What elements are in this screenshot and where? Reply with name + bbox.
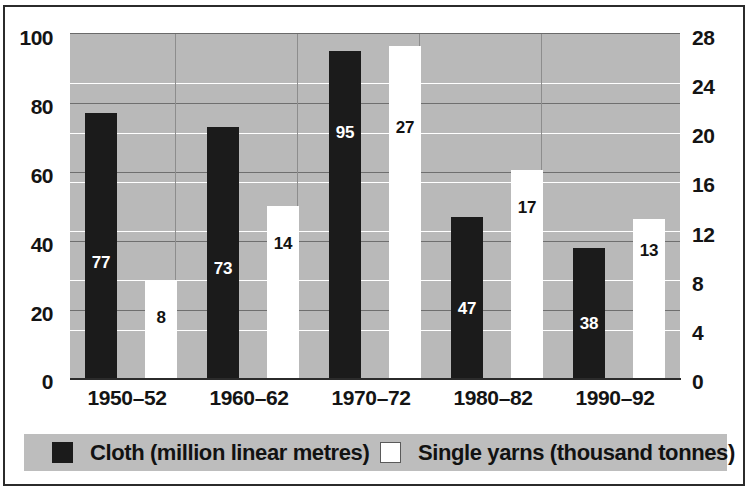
right-axis-tick-24: 24 xyxy=(692,76,744,97)
right-axis-tick-12: 12 xyxy=(692,224,744,245)
category-label-1950-52: 1950–52 xyxy=(66,387,188,408)
bar-single-yarns-1980–82[interactable]: 17 xyxy=(511,170,543,379)
bar-cloth-1970–72-value-label: 95 xyxy=(329,123,361,143)
bar-single-yarns-1960–62-value-label: 14 xyxy=(267,234,299,254)
left-axis-tick-80: 80 xyxy=(0,96,53,117)
legend-swatch-cloth-icon xyxy=(52,442,73,463)
category-label-1970-72: 1970–72 xyxy=(310,387,432,408)
bar-single-yarns-1970–72[interactable]: 27 xyxy=(389,46,421,379)
left-axis-tick-60: 60 xyxy=(0,165,53,186)
gridline-left-40 xyxy=(70,241,680,242)
bar-cloth-1970–72[interactable]: 95 xyxy=(329,51,361,379)
gridline-right-20 xyxy=(70,133,680,134)
gridline-left-80 xyxy=(70,103,680,104)
bar-single-yarns-1950–52[interactable]: 8 xyxy=(145,280,177,379)
bar-cloth-1960–62-value-label: 73 xyxy=(207,259,239,279)
bar-cloth-1990–92[interactable]: 38 xyxy=(573,248,605,379)
bar-cloth-1990–92-value-label: 38 xyxy=(573,314,605,334)
bar-single-yarns-1950–52-value-label: 8 xyxy=(145,308,177,328)
legend-swatch-single-yarns-icon xyxy=(380,442,401,463)
chart-figure: 7787314952747173813 100 80 60 40 20 0 28… xyxy=(3,5,745,486)
bar-single-yarns-1960–62[interactable]: 14 xyxy=(267,206,299,379)
chart-legend: Cloth (million linear metres) Single yar… xyxy=(24,434,727,471)
right-axis-tick-0: 0 xyxy=(692,371,744,392)
legend-label-single-yarns: Single yarns (thousand tonnes) xyxy=(418,440,735,466)
left-axis-tick-20: 20 xyxy=(0,303,53,324)
bar-single-yarns-1990–92-value-label: 13 xyxy=(633,241,665,261)
right-axis-tick-28: 28 xyxy=(692,27,744,48)
bar-cloth-1950–52-value-label: 77 xyxy=(85,253,117,273)
legend-entry-cloth[interactable]: Cloth (million linear metres) xyxy=(52,434,369,471)
bar-single-yarns-1970–72-value-label: 27 xyxy=(389,118,421,138)
gridline-right-12 xyxy=(70,231,680,232)
bar-single-yarns-1990–92[interactable]: 13 xyxy=(633,219,665,379)
bar-cloth-1980–82[interactable]: 47 xyxy=(451,217,483,379)
gridline-right-24 xyxy=(70,83,680,84)
right-axis-tick-20: 20 xyxy=(692,125,744,146)
gridline-right-16 xyxy=(70,182,680,183)
right-axis-tick-4: 4 xyxy=(692,322,744,343)
legend-entry-single-yarns[interactable]: Single yarns (thousand tonnes) xyxy=(380,434,735,471)
x-axis-line xyxy=(70,378,681,380)
left-axis-tick-0: 0 xyxy=(0,371,53,392)
plot-area: 7787314952747173813 xyxy=(70,33,680,379)
right-axis-tick-8: 8 xyxy=(692,273,744,294)
bar-single-yarns-1980–82-value-label: 17 xyxy=(511,198,543,218)
bar-cloth-1980–82-value-label: 47 xyxy=(451,299,483,319)
right-axis-tick-16: 16 xyxy=(692,174,744,195)
category-label-1990-92: 1990–92 xyxy=(554,387,676,408)
left-axis-tick-40: 40 xyxy=(0,234,53,255)
bar-cloth-1950–52[interactable]: 77 xyxy=(85,113,117,379)
category-label-1980-82: 1980–82 xyxy=(432,387,554,408)
legend-label-cloth: Cloth (million linear metres) xyxy=(90,440,369,466)
category-label-1960-62: 1960–62 xyxy=(188,387,310,408)
bar-cloth-1960–62[interactable]: 73 xyxy=(207,127,239,379)
gridline-left-60 xyxy=(70,172,680,173)
left-axis-tick-100: 100 xyxy=(0,27,53,48)
